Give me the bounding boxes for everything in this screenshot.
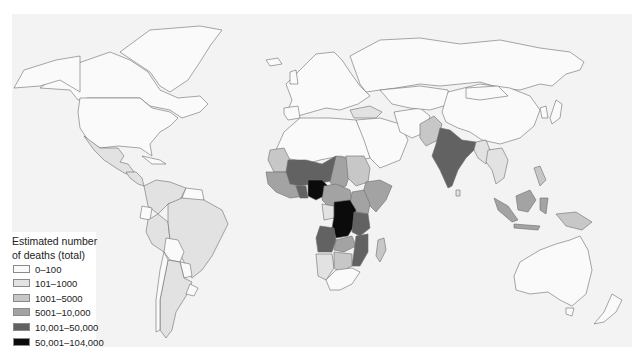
legend-swatch xyxy=(13,338,30,346)
iberia xyxy=(284,106,300,120)
legend-swatch xyxy=(13,323,30,331)
angola xyxy=(316,226,336,252)
sudan xyxy=(346,156,370,186)
papua-new-guinea xyxy=(556,212,592,230)
legend-label: 101–1000 xyxy=(35,278,77,289)
indonesia-sulawesi xyxy=(540,198,548,214)
korea xyxy=(540,106,548,118)
legend-swatch xyxy=(13,308,30,316)
legend-item: 0–100 xyxy=(13,263,61,275)
tanzania xyxy=(352,212,370,236)
russia xyxy=(350,38,584,92)
sri-lanka xyxy=(456,190,460,196)
legend-item: 101–1000 xyxy=(13,277,77,289)
world-choropleth-map xyxy=(0,0,643,355)
australia xyxy=(514,236,592,306)
legend-item: 50,001–104,000 xyxy=(13,336,104,348)
iceland xyxy=(266,58,282,66)
legend: Estimated number of deaths (total) 0–100… xyxy=(0,232,96,350)
legend-swatch xyxy=(13,294,30,302)
legend-label: 0–100 xyxy=(35,264,61,275)
zambia xyxy=(334,236,356,252)
caribbean xyxy=(142,156,166,164)
madagascar xyxy=(376,238,386,262)
legend-label: 10,001–50,000 xyxy=(35,322,98,333)
gabon-congo xyxy=(322,204,334,220)
legend-label: 50,001–104,000 xyxy=(35,337,104,348)
legend-title-line1: Estimated number xyxy=(12,235,122,249)
indonesia-java xyxy=(514,224,540,230)
tasmania xyxy=(566,308,574,316)
turkey xyxy=(350,106,382,118)
legend-swatch xyxy=(13,265,30,273)
legend-swatch xyxy=(13,279,30,287)
japan xyxy=(550,100,562,124)
legend-item: 10,001–50,000 xyxy=(13,321,98,333)
united-kingdom xyxy=(290,70,298,84)
southeast-asia xyxy=(486,148,508,184)
legend-title: Estimated number of deaths (total) xyxy=(12,235,122,262)
philippines xyxy=(534,166,546,186)
central-asia xyxy=(380,86,450,110)
mozambique-malawi xyxy=(352,234,368,266)
legend-item: 1001–5000 xyxy=(13,292,83,304)
legend-label: 5001–10,000 xyxy=(35,307,90,318)
indonesia-sumatra xyxy=(494,198,518,222)
central-america xyxy=(126,172,144,186)
ecuador xyxy=(140,206,152,220)
indonesia-borneo xyxy=(516,190,536,212)
legend-label: 1001–5000 xyxy=(35,293,83,304)
india xyxy=(432,128,476,188)
new-zealand xyxy=(594,294,622,324)
legend-title-line2: of deaths (total) xyxy=(12,249,122,263)
legend-item: 5001–10,000 xyxy=(13,306,90,318)
